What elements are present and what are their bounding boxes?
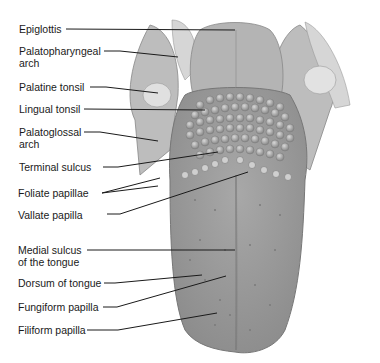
label-vallate-papilla: Vallate papilla: [18, 209, 83, 221]
label-palatine-tonsil: Palatine tonsil: [19, 81, 84, 93]
label-dorsum-of-tongue: Dorsum of tongue: [18, 277, 101, 289]
label-fungiform-papilla: Fungiform papilla: [18, 301, 99, 313]
label-medial-sulcus-2: of the tongue: [18, 256, 79, 268]
label-palatoglossal-arch: Palatoglossal: [19, 126, 81, 138]
label-medial-sulcus: Medial sulcus: [18, 244, 82, 256]
label-epiglottis: Epiglottis: [19, 23, 62, 35]
label-terminal-sulcus: Terminal sulcus: [19, 161, 91, 173]
label-foliate-papillae: Foliate papillae: [18, 187, 89, 199]
label-filiform-papilla: Filiform papilla: [18, 324, 86, 336]
label-lingual-tonsil: Lingual tonsil: [19, 103, 80, 115]
label-palatopharyngeal-arch: Palatopharyngeal: [19, 45, 101, 57]
label-palatopharyngeal-arch-2: arch: [19, 57, 39, 69]
label-palatoglossal-arch-2: arch: [19, 138, 39, 150]
